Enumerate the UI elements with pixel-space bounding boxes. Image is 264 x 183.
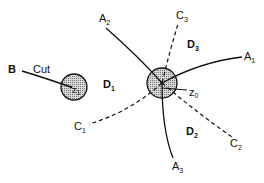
label-D3: D3 bbox=[187, 38, 199, 52]
z0-point bbox=[161, 82, 164, 85]
label-B: B bbox=[8, 63, 16, 75]
label-C1: C1 bbox=[74, 120, 86, 134]
label-C3: C3 bbox=[176, 9, 188, 23]
label-C2: C2 bbox=[230, 137, 242, 151]
label-cut: Cut bbox=[33, 63, 50, 75]
label-z0: z0 bbox=[189, 86, 199, 99]
diagram-canvas: B Cut z1 z0 A1 A2 A3 C1 C2 C3 D1 D2 D3 bbox=[0, 0, 264, 183]
label-A2: A2 bbox=[99, 12, 110, 26]
label-A1: A1 bbox=[244, 50, 255, 64]
label-D2: D2 bbox=[186, 125, 198, 139]
label-D1: D1 bbox=[103, 78, 115, 92]
label-A3: A3 bbox=[172, 160, 183, 174]
